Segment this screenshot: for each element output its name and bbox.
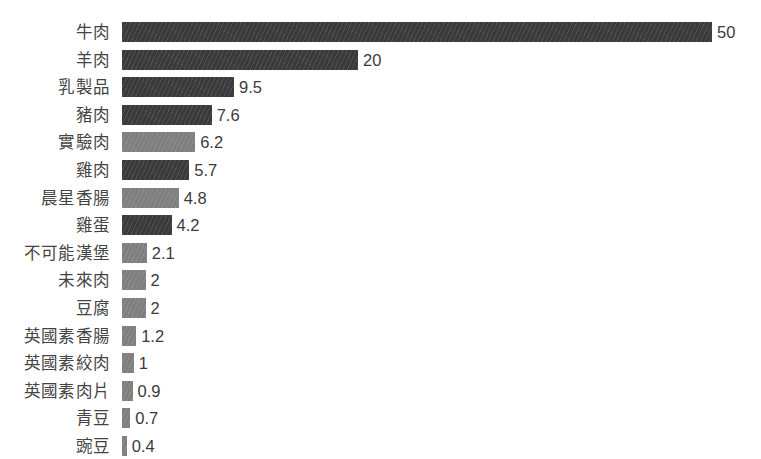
category-label: 豌豆 <box>0 436 116 456</box>
bar-texture <box>122 132 195 152</box>
bar-value-label: 4.8 <box>179 188 207 208</box>
bar <box>122 326 136 346</box>
bar-value-label: 2.1 <box>147 243 175 263</box>
bar-row: 英國素香腸1.2 <box>0 326 761 346</box>
bar-texture <box>122 436 127 456</box>
bar-chart: 牛肉50羊肉20乳製品9.5豬肉7.6實驗肉6.2雞肉5.7晨星香腸4.8雞蛋4… <box>0 0 761 459</box>
bar-value-label: 2 <box>146 270 160 290</box>
bar <box>122 188 179 208</box>
bar <box>122 160 189 180</box>
bar <box>122 215 172 235</box>
bar-texture <box>122 105 212 125</box>
bar-track: 2 <box>122 298 761 318</box>
bar-track: 20 <box>122 50 761 70</box>
bar-track: 0.7 <box>122 408 761 428</box>
bar-track: 5.7 <box>122 160 761 180</box>
bar-track: 7.6 <box>122 105 761 125</box>
bar-row: 雞肉5.7 <box>0 160 761 180</box>
bar-value-label: 9.5 <box>234 77 262 97</box>
bar-row: 英國素絞肉1 <box>0 353 761 373</box>
bar <box>122 243 147 263</box>
bar-texture <box>122 326 136 346</box>
bar-texture <box>122 298 146 318</box>
bar-track: 1.2 <box>122 326 761 346</box>
category-label: 青豆 <box>0 408 116 428</box>
chart-plot-area: 牛肉50羊肉20乳製品9.5豬肉7.6實驗肉6.2雞肉5.7晨星香腸4.8雞蛋4… <box>0 0 761 459</box>
bar-row: 羊肉20 <box>0 50 761 70</box>
bar <box>122 353 134 373</box>
category-label: 雞肉 <box>0 160 116 180</box>
bar <box>122 132 195 152</box>
bar-texture <box>122 77 234 97</box>
bar-value-label: 0.4 <box>127 436 155 456</box>
bar-track: 4.2 <box>122 215 761 235</box>
bar <box>122 105 212 125</box>
bar-row: 實驗肉6.2 <box>0 132 761 152</box>
bar-row: 不可能漢堡2.1 <box>0 243 761 263</box>
bar <box>122 77 234 97</box>
bar-texture <box>122 215 172 235</box>
bar-row: 未來肉2 <box>0 270 761 290</box>
bar-texture <box>122 408 130 428</box>
category-label: 晨星香腸 <box>0 188 116 208</box>
bar <box>122 50 358 70</box>
bar-value-label: 7.6 <box>212 105 240 125</box>
category-label: 牛肉 <box>0 22 116 42</box>
category-label: 英國素香腸 <box>0 326 116 346</box>
bar-value-label: 0.7 <box>130 408 158 428</box>
bar <box>122 22 712 42</box>
bar-track: 0.4 <box>122 436 761 456</box>
bar-texture <box>122 243 147 263</box>
bar <box>122 270 146 290</box>
bar <box>122 381 133 401</box>
bar-track: 4.8 <box>122 188 761 208</box>
bar-texture <box>122 50 358 70</box>
bar <box>122 298 146 318</box>
bar-track: 50 <box>122 22 761 42</box>
category-label: 豬肉 <box>0 105 116 125</box>
bar-track: 9.5 <box>122 77 761 97</box>
bar-row: 豆腐2 <box>0 298 761 318</box>
bar-track: 2 <box>122 270 761 290</box>
category-label: 豆腐 <box>0 298 116 318</box>
bar-row: 英國素肉片0.9 <box>0 381 761 401</box>
bar-value-label: 1.2 <box>136 326 164 346</box>
bar-texture <box>122 353 134 373</box>
bar-value-label: 50 <box>712 22 735 42</box>
bar-row: 牛肉50 <box>0 22 761 42</box>
category-label: 未來肉 <box>0 270 116 290</box>
category-label: 英國素絞肉 <box>0 353 116 373</box>
bar-row: 雞蛋4.2 <box>0 215 761 235</box>
bar-value-label: 0.9 <box>133 381 161 401</box>
bar-value-label: 4.2 <box>172 215 200 235</box>
category-label: 雞蛋 <box>0 215 116 235</box>
category-label: 實驗肉 <box>0 132 116 152</box>
bar-row: 豌豆0.4 <box>0 436 761 456</box>
bar-value-label: 2 <box>146 298 160 318</box>
bar-value-label: 6.2 <box>195 132 223 152</box>
bar-row: 乳製品9.5 <box>0 77 761 97</box>
bar <box>122 436 127 456</box>
category-label: 乳製品 <box>0 77 116 97</box>
category-label: 不可能漢堡 <box>0 243 116 263</box>
category-label: 英國素肉片 <box>0 381 116 401</box>
bar-track: 6.2 <box>122 132 761 152</box>
bar-texture <box>122 188 179 208</box>
bar-row: 青豆0.7 <box>0 408 761 428</box>
bar-texture <box>122 22 712 42</box>
bar-value-label: 20 <box>358 50 381 70</box>
bar-value-label: 5.7 <box>189 160 217 180</box>
bar-track: 0.9 <box>122 381 761 401</box>
bar-track: 2.1 <box>122 243 761 263</box>
bar-row: 豬肉7.6 <box>0 105 761 125</box>
bar-texture <box>122 381 133 401</box>
bar-texture <box>122 160 189 180</box>
bar-row: 晨星香腸4.8 <box>0 188 761 208</box>
bar-value-label: 1 <box>134 353 148 373</box>
bar-track: 1 <box>122 353 761 373</box>
bar <box>122 408 130 428</box>
category-label: 羊肉 <box>0 50 116 70</box>
bar-texture <box>122 270 146 290</box>
